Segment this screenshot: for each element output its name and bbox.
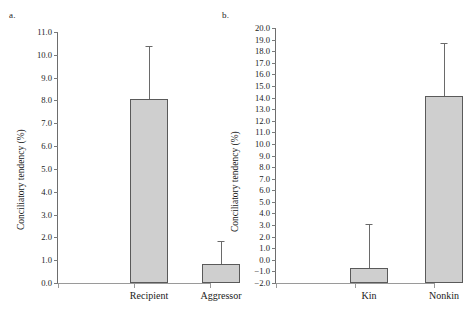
panel-b-y-tick-label: 18.0 [255,47,270,56]
panel-b-y-tick [272,248,276,249]
panel-b-y-tick-label: 0.0 [259,256,270,265]
panel-b-y-tick-label: 19.0 [255,35,270,44]
panel-b-y-tick-label: 4.0 [259,209,270,218]
panel-b-y-tick-label: 17.0 [255,58,270,67]
error-bar-cap-kin [366,224,373,225]
bar-kin [350,268,388,283]
x-axis-label-kin: Kin [362,290,377,301]
panel-a-y-tick [54,78,58,79]
panel-a-x-tick [58,283,59,288]
panel-b-y-tick-label: 3.0 [259,221,270,230]
error-bar-recipient [149,46,150,100]
panel-b-y-tick-label: 1.0 [259,244,270,253]
panel-b-y-tick [272,86,276,87]
panel-b-y-tick [272,132,276,133]
panel-a-y-tick-label: 3.0 [41,210,52,219]
panel-b-y-tick [272,98,276,99]
panel-b-y-tick-label: −2.0 [254,279,270,288]
panel-b-y-tick [272,156,276,157]
panel-a-y-tick-label: 1.0 [41,256,52,265]
panel-b-y-tick [272,202,276,203]
panel-b-y-tick-label: 15.0 [255,82,270,91]
panel-a-y-tick [54,100,58,101]
panel-a-plot-area: 11.010.09.08.07.06.05.04.03.02.01.00.0Re… [57,32,210,284]
panel-b-y-tick-label: 2.0 [259,232,270,241]
panel-b-y-tick-label: 5.0 [259,198,270,207]
panel-b-y-tick [272,179,276,180]
panel-a-y-tick [54,192,58,193]
panel-b-y-tick-label: 7.0 [259,174,270,183]
panel-a-y-tick-label: 5.0 [41,165,52,174]
panel-b-y-tick-label: 14.0 [255,93,270,102]
panel-a-y-tick [54,169,58,170]
panel-a-y-tick-label: 11.0 [37,28,52,37]
panel-b-x-tick [434,283,435,288]
panel-b-y-tick [272,63,276,64]
error-bar-cap-nonkin [441,43,448,44]
panel-b-y-tick [272,144,276,145]
panel-a-y-tick [54,215,58,216]
panel-b-y-tick [272,213,276,214]
panel-b-x-tick [276,283,277,288]
panel-b-y-tick [272,109,276,110]
panel-a-y-tick-label: 8.0 [41,96,52,105]
error-bar-nonkin [444,43,445,96]
panel-a-y-tick-label: 10.0 [37,51,52,60]
panel-b-y-axis-title: Conciliatory tendency (%) [230,131,240,232]
panel-a-y-tick [54,237,58,238]
panel-b-y-tick [272,121,276,122]
panel-a-y-tick-label: 2.0 [41,233,52,242]
x-axis-label-nonkin: Nonkin [429,290,459,301]
panel-b-y-tick [272,167,276,168]
panel-a-y-tick-label: 0.0 [41,279,52,288]
panel-a-y-tick [54,260,58,261]
panel-a-y-axis-title: Conciliatory tendency (%) [16,129,26,230]
panel-b-letter: b. [222,10,229,20]
panel-b-y-tick-label: 11.0 [255,128,270,137]
panel-a-y-tick-label: 4.0 [41,187,52,196]
panel-a-x-tick [210,283,211,288]
panel-b-y-tick-label: 9.0 [259,151,270,160]
panel-b-y-tick [272,225,276,226]
panel-b-y-tick-label: 12.0 [255,116,270,125]
panel-b-y-tick-label: 20.0 [255,24,270,33]
panel-a-letter: a. [9,10,16,20]
panel-a-y-tick-label: 7.0 [41,119,52,128]
panel-a-y-tick [54,32,58,33]
panel-b-y-tick-label: 13.0 [255,105,270,114]
panel-b-y-tick [272,260,276,261]
panel-b-plot-area: 20.019.018.017.016.015.014.013.012.011.0… [275,28,434,284]
panel-b-y-tick [272,40,276,41]
panel-b-y-tick-label: 8.0 [259,163,270,172]
panel-b: b. Conciliatory tendency (%) 20.019.018.… [216,0,445,315]
panel-a: a. Conciliatory tendency (%) 11.010.09.0… [0,0,216,315]
panel-b-y-tick [272,74,276,75]
x-axis-label-recipient: Recipient [130,290,168,301]
bar-nonkin [425,96,463,283]
panel-b-y-tick [272,190,276,191]
panel-b-y-tick-label: −1.0 [254,267,270,276]
panel-a-y-tick-label: 9.0 [41,73,52,82]
panel-b-y-tick [272,28,276,29]
bar-recipient [130,99,168,283]
panel-b-y-tick-label: 16.0 [255,70,270,79]
panel-a-y-tick-label: 6.0 [41,142,52,151]
panel-b-y-tick [272,237,276,238]
panel-b-y-tick [272,271,276,272]
panel-a-y-tick [54,55,58,56]
panel-a-y-tick [54,146,58,147]
panel-b-x-tick [355,283,356,288]
panel-a-y-tick [54,123,58,124]
panel-b-y-tick [272,51,276,52]
panel-b-y-tick-label: 10.0 [255,140,270,149]
panel-a-x-tick [134,283,135,288]
panel-b-y-tick-label: 6.0 [259,186,270,195]
error-bar-kin [369,224,370,268]
error-bar-cap-recipient [146,46,153,47]
